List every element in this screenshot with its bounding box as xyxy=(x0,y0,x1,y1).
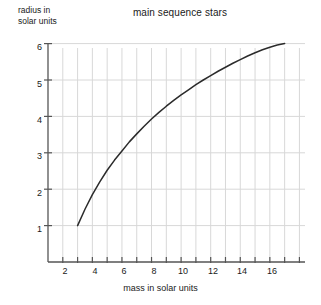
gridlines xyxy=(49,44,305,261)
chart-container: main sequence stars radius in solar unit… xyxy=(0,0,321,305)
chart-plot-area xyxy=(0,0,321,305)
